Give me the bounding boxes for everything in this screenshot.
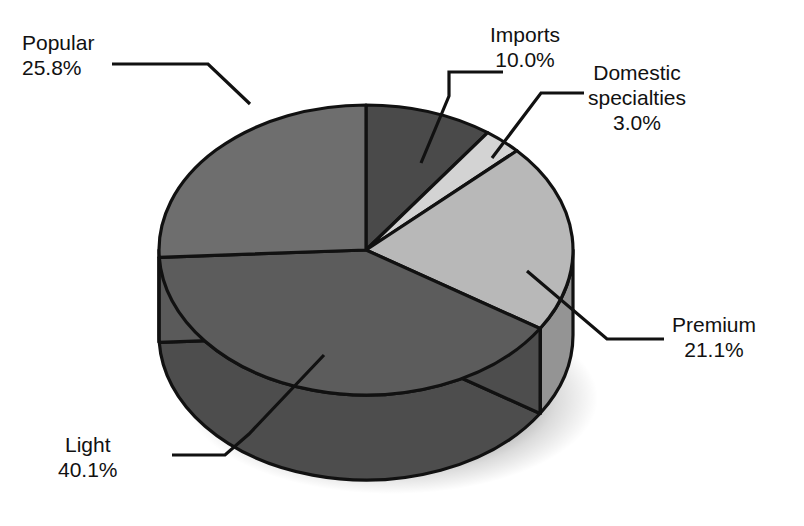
pie-chart-figure: Figure: Market share of beer by type, do… [0,0,804,526]
slice-label-domestic-specialties-name2: specialties [588,85,686,110]
slice-label-popular-name: Popular [22,30,94,55]
slice-label-popular: Popular 25.8% [22,30,94,80]
slice-label-imports-name: Imports [490,22,560,47]
slice-label-popular-value: 25.8% [22,55,94,80]
pie-top-face [159,105,573,395]
leader-line-popular [112,64,250,104]
slice-label-premium-value: 21.1% [672,337,756,362]
slice-label-imports-value: 10.0% [490,47,560,72]
slice-label-domestic-specialties: Domestic specialties 3.0% [588,60,686,135]
slice-label-domestic-specialties-value: 3.0% [588,110,686,135]
pie-slice-popular[interactable] [159,105,366,257]
slice-label-light-name: Light [58,432,118,457]
slice-label-light: Light 40.1% [58,432,118,482]
slice-label-imports: Imports 10.0% [490,22,560,72]
slice-label-premium: Premium 21.1% [672,312,756,362]
slice-label-domestic-specialties-name1: Domestic [588,60,686,85]
slice-label-light-value: 40.1% [58,457,118,482]
slice-label-premium-name: Premium [672,312,756,337]
